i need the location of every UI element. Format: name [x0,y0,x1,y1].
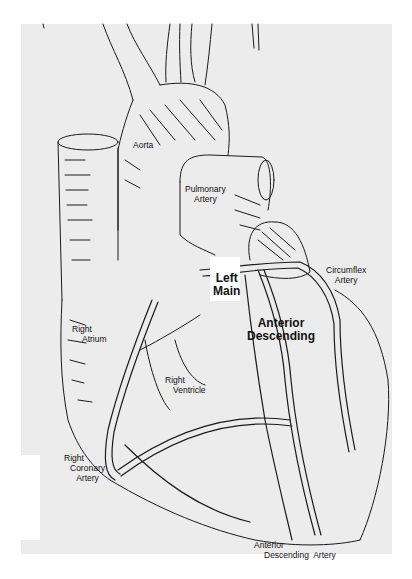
label-right-coronary-artery: Right Coronary Artery [64,453,105,483]
label-line: Artery [185,194,226,204]
label-circumflex-artery: Circumflex Artery [326,265,366,285]
label-line: Coronary [64,463,105,473]
label-line: Artery [326,275,366,285]
label-anterior-descending-artery: Anterior Descending Artery [254,540,336,560]
label-anterior-descending: Anterior Descending [247,317,315,343]
label-aorta: Aorta [133,140,153,150]
label-pulmonary-artery: Pulmonary Artery [185,184,226,204]
label-line: Main [213,285,240,298]
aortic-arch-branches [43,24,259,100]
right-ventricle-branches [140,315,205,410]
heart-illustration [0,0,412,579]
label-left-main: Left Main [213,272,240,298]
label-line: Right [165,375,206,385]
label-line: Right [72,324,107,334]
label-line: Descending Artery [254,550,336,560]
label-line: Ventricle [165,385,206,395]
label-line: Artery [64,473,105,483]
label-line: Anterior [254,540,336,550]
label-line: Atrium [72,334,107,344]
label-right-ventricle: Right Ventricle [165,375,206,395]
vena-cava [58,134,118,300]
label-line: Circumflex [326,265,366,275]
label-line: Right [64,453,105,463]
anterior-descending-vessel [245,270,321,540]
pulmonary-artery [180,155,274,255]
label-line: Descending [247,330,315,343]
aorta [118,83,229,230]
label-right-atrium: Right Atrium [72,324,107,344]
label-line: Pulmonary [185,184,226,194]
